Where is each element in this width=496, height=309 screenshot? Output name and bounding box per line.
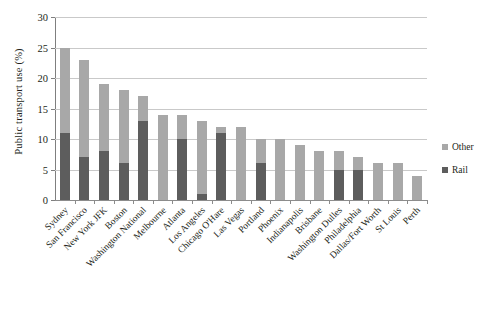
- x-axis-label: Washington Dulles: [286, 205, 344, 263]
- bar-segment-rail: [353, 170, 363, 201]
- bar-column: [119, 17, 129, 200]
- x-axis-label: Chicago O'Hare: [176, 205, 226, 255]
- bar-column: [177, 17, 187, 200]
- bar-segment-other: [197, 121, 207, 194]
- x-axis-tick: [310, 200, 311, 204]
- x-axis-tick: [192, 200, 193, 204]
- bar-column: [158, 17, 168, 200]
- x-axis-tick: [75, 200, 76, 204]
- bar-column: [295, 17, 305, 200]
- bar-segment-rail: [79, 157, 89, 200]
- y-axis-tick-label: 0: [43, 195, 48, 206]
- bar-column: [393, 17, 403, 200]
- bar-column: [138, 17, 148, 200]
- bar-segment-other: [295, 145, 305, 200]
- x-axis-label: Brisbane: [293, 205, 324, 236]
- x-axis-label: Philadelphia: [323, 205, 364, 246]
- x-axis-tick: [251, 200, 252, 204]
- bar-column: [236, 17, 246, 200]
- bar-column: [412, 17, 422, 200]
- x-axis-label: San Francisco: [44, 205, 89, 250]
- x-axis-label: New York JFK: [62, 205, 109, 252]
- bar-segment-other: [216, 127, 226, 133]
- x-axis-tick: [290, 200, 291, 204]
- bar-column: [275, 17, 285, 200]
- bar-segment-other: [138, 96, 148, 120]
- public-transport-use-chart: Public transport use (%) 051015202530 Sy…: [0, 0, 496, 309]
- bar-column: [216, 17, 226, 200]
- x-axis-label: Dallas/Fort Worth: [328, 205, 383, 260]
- x-axis-tick: [94, 200, 95, 204]
- bar-segment-rail: [119, 163, 129, 200]
- x-axis-tick: [231, 200, 232, 204]
- bar-segment-other: [119, 90, 129, 163]
- bar-column: [373, 17, 383, 200]
- x-axis-tick: [388, 200, 389, 204]
- x-axis-tick: [329, 200, 330, 204]
- x-axis-label: Perth: [401, 205, 422, 226]
- x-axis-label: Sydney: [43, 205, 70, 232]
- y-axis-tick: [51, 200, 55, 201]
- bar-segment-other: [393, 163, 403, 200]
- x-axis-tick: [114, 200, 115, 204]
- y-axis-tick-label: 10: [38, 134, 49, 145]
- bar-segment-other: [99, 84, 109, 151]
- x-axis-label: Los Angeles: [166, 205, 206, 245]
- y-axis-title: Public transport use (%): [13, 12, 24, 192]
- y-axis-tick-label: 25: [38, 42, 49, 53]
- legend-swatch-rail-icon: [442, 167, 448, 173]
- y-axis-tick-label: 30: [38, 12, 49, 23]
- bar-segment-rail: [60, 133, 70, 200]
- bar-column: [334, 17, 344, 200]
- bar-segment-other: [275, 139, 285, 200]
- bar-segment-other: [412, 176, 422, 200]
- bar-column: [99, 17, 109, 200]
- x-axis-label: Las Vegas: [212, 205, 246, 239]
- bar-series-group: [55, 17, 427, 200]
- bar-segment-other: [334, 151, 344, 169]
- bar-segment-rail: [99, 151, 109, 200]
- x-axis-label: Portland: [236, 205, 266, 235]
- bar-segment-other: [256, 139, 266, 163]
- x-axis-tick: [153, 200, 154, 204]
- legend-item-other: Other: [442, 142, 474, 152]
- bar-segment-rail: [197, 194, 207, 200]
- y-axis-tick-label: 20: [38, 73, 49, 84]
- y-axis-tick-label: 5: [43, 164, 48, 175]
- bar-column: [256, 17, 266, 200]
- bar-segment-other: [60, 48, 70, 133]
- bar-column: [60, 17, 70, 200]
- x-axis-label: Boston: [102, 205, 128, 231]
- bar-segment-other: [177, 115, 187, 139]
- bar-segment-rail: [216, 133, 226, 200]
- x-axis-tick: [270, 200, 271, 204]
- legend-label-other: Other: [452, 142, 474, 152]
- bar-segment-rail: [256, 163, 266, 200]
- bar-segment-rail: [177, 139, 187, 200]
- chart-legend: Other Rail: [442, 142, 474, 188]
- x-axis-label: Phoenix: [256, 205, 285, 234]
- bar-segment-other: [79, 60, 89, 158]
- x-axis-tick: [133, 200, 134, 204]
- x-axis-label: Atlanta: [160, 205, 187, 232]
- x-axis-label: Washington National: [84, 205, 148, 269]
- bar-segment-rail: [138, 121, 148, 200]
- legend-item-rail: Rail: [442, 165, 474, 175]
- bar-column: [353, 17, 363, 200]
- bar-segment-other: [236, 127, 246, 200]
- x-axis-label: St Louis: [373, 205, 403, 235]
- legend-swatch-other-icon: [442, 144, 448, 150]
- bar-segment-other: [158, 115, 168, 200]
- bar-segment-other: [353, 157, 363, 169]
- legend-label-rail: Rail: [452, 165, 468, 175]
- x-axis-tick: [212, 200, 213, 204]
- bar-column: [314, 17, 324, 200]
- plot-area: 051015202530: [55, 17, 427, 200]
- bar-segment-other: [314, 151, 324, 200]
- x-axis-tick: [427, 200, 428, 204]
- x-axis-tick: [407, 200, 408, 204]
- gridline: [55, 200, 427, 201]
- bar-column: [79, 17, 89, 200]
- x-axis-tick: [368, 200, 369, 204]
- x-axis-label: Indianapolis: [265, 205, 305, 245]
